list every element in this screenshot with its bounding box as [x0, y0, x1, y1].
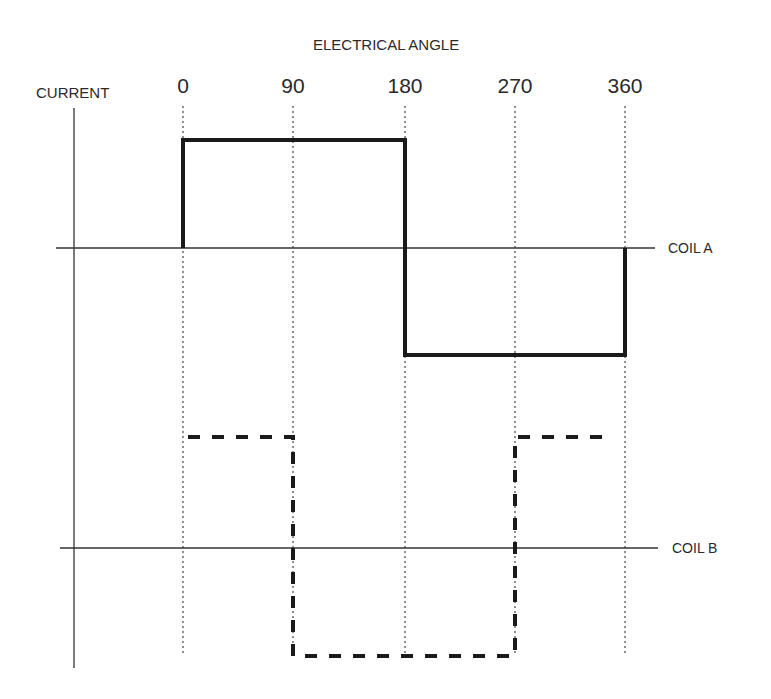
- y-axis-label: CURRENT: [36, 84, 109, 101]
- coil-current-diagram: [0, 0, 771, 699]
- coil-a-label: COIL A: [668, 240, 713, 256]
- tick-180: 180: [387, 74, 422, 98]
- coil-b-waveform: [188, 437, 612, 656]
- tick-360: 360: [607, 74, 642, 98]
- tick-90: 90: [281, 74, 304, 98]
- tick-0: 0: [177, 74, 189, 98]
- tick-270: 270: [497, 74, 532, 98]
- coil-b-label: COIL B: [672, 540, 717, 556]
- x-axis-title: ELECTRICAL ANGLE: [313, 36, 459, 53]
- coil-b-segment-1: [188, 437, 612, 656]
